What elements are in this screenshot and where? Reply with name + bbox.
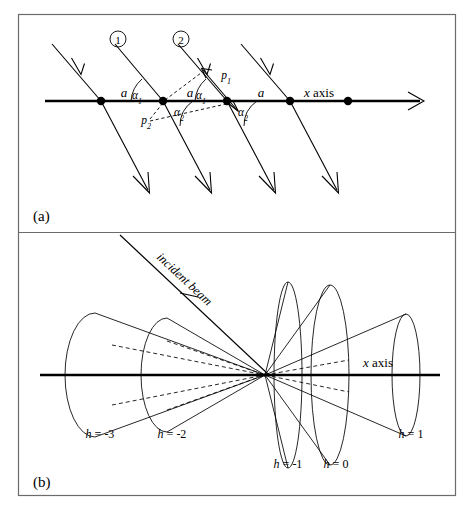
angle-label-alpha1-right: α1 (196, 89, 206, 106)
spacing-label-a1: a (121, 85, 128, 100)
cone-label-h-minus-1: h = -1 (274, 457, 303, 471)
figure-frame (19, 15, 456, 496)
x-axis-label-b: x axis (362, 355, 393, 370)
angle-label-alpha2-left: α2 (174, 106, 184, 123)
spacing-label-a2: a (187, 85, 194, 100)
incident-rays-a (52, 44, 290, 101)
path-difference-label-p1: p1 (220, 69, 231, 86)
panel-caption-b: (b) (33, 474, 51, 491)
angle-arcs-upper-a (131, 79, 206, 101)
spacing-label-a3: a (258, 85, 265, 100)
ray-number-1-label: 1 (115, 34, 121, 46)
ray-number-2: 2 (173, 31, 189, 47)
panel-a: a a a α1 α1 α2 α2 p1 p2 1 2 x axis (a) (33, 31, 424, 225)
cone-label-h-minus-2: h = -2 (158, 427, 187, 441)
cone-label-h-minus-3: h = -3 (86, 427, 115, 441)
cone-label-h-1: h = 1 (399, 427, 424, 441)
x-axis-label-a: x axis (303, 85, 334, 100)
ray-number-1: 1 (110, 31, 126, 47)
diffracted-rays-a (101, 101, 339, 193)
panel-caption-a: (a) (33, 208, 50, 225)
figure-svg: a a a α1 α1 α2 α2 p1 p2 1 2 x axis (a) x… (0, 0, 469, 510)
figure-container: a a a α1 α1 α2 α2 p1 p2 1 2 x axis (a) x… (0, 0, 469, 510)
path-difference-label-p2: p2 (140, 114, 151, 131)
angle-label-alpha2-right: α2 (238, 106, 248, 123)
panel-b: x axis incident beam (33, 235, 440, 491)
angle-label-alpha1-left: α1 (132, 89, 142, 106)
cone-label-h-0: h = 0 (324, 457, 349, 471)
lattice-point (344, 97, 352, 105)
ray-number-2-label: 2 (178, 34, 184, 46)
incident-beam-label: incident beam (154, 250, 215, 308)
incident-beam: incident beam (120, 235, 268, 374)
